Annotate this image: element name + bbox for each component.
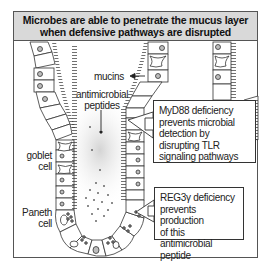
label-line: cell — [20, 161, 52, 172]
callout-line: peptide — [160, 250, 238, 262]
goblet-cell-label: goblet cell — [20, 150, 52, 172]
label-line: goblet — [20, 150, 52, 161]
label-line: peptides — [76, 100, 128, 111]
right-microvilli — [121, 108, 126, 200]
mucins-label: mucins — [94, 71, 124, 82]
reg3g-callout: REG3γ deficiency prevents production of … — [154, 187, 244, 240]
figure-title-bar: Microbes are able to penetrate the mucus… — [13, 11, 258, 41]
figure-title: Microbes are able to penetrate the mucus… — [21, 14, 251, 38]
callout-line: REG3γ deficiency — [160, 192, 238, 204]
callout-line: of this antimicrobial — [160, 227, 238, 250]
label-line: Paneth — [18, 207, 52, 218]
antimicrobial-peptides-label: antimicrobial peptides — [76, 89, 128, 111]
label-line: antimicrobial — [76, 89, 128, 100]
myd88-callout: MyD88 deficiency prevents microbial dete… — [153, 100, 256, 163]
callout-line: detection by — [159, 128, 250, 140]
label-line: cell — [18, 218, 52, 229]
callout-line: prevents microbial — [159, 117, 250, 129]
paneth-cell-label: Paneth cell — [18, 207, 52, 229]
callout-line: prevents production — [160, 204, 238, 227]
callout-line: disrupting TLR — [159, 140, 250, 152]
left-crypt-wall — [30, 42, 74, 210]
callout-line: signaling pathways — [159, 151, 250, 163]
callout-line: MyD88 deficiency — [159, 105, 250, 117]
